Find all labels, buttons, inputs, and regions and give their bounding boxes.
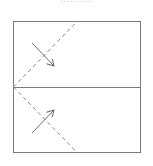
upper-dashed-fold-line bbox=[14, 22, 78, 88]
lower-fold-arrow-icon bbox=[32, 110, 54, 133]
fold-diagram bbox=[0, 0, 153, 166]
upper-fold-arrow-icon bbox=[32, 43, 54, 66]
